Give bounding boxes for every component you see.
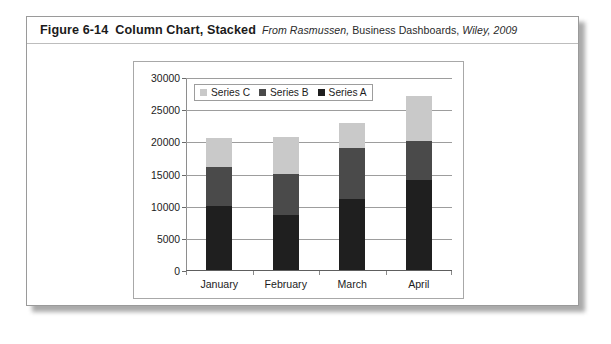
- bar-stack[interactable]: [406, 96, 432, 270]
- y-axis-tick-mark: [182, 78, 186, 79]
- y-axis-tick-mark: [182, 142, 186, 143]
- figure-source: From Rasmussen, Business Dashboards, Wil…: [262, 25, 517, 36]
- figure-caption: Figure 6-14 Column Chart, Stacked From R…: [27, 24, 517, 37]
- figure-title: Column Chart, Stacked: [115, 24, 256, 37]
- bar-segment-series-b[interactable]: [339, 148, 365, 199]
- x-axis-tick-mark: [451, 271, 452, 275]
- x-axis-tick-label: March: [338, 278, 367, 290]
- x-axis-tick-label: April: [408, 278, 429, 290]
- bar-segment-series-c[interactable]: [206, 138, 232, 168]
- legend-item[interactable]: Series A: [318, 87, 367, 98]
- x-axis-tick-label: January: [200, 278, 238, 290]
- figure-caption-bar: Figure 6-14 Column Chart, Stacked From R…: [27, 17, 578, 44]
- figure-source-book: Business Dashboards,: [352, 24, 459, 36]
- legend-swatch-icon: [318, 89, 325, 96]
- legend-swatch-icon: [200, 89, 207, 96]
- chart-plot-area: 050001000015000200002500030000JanuaryFeb…: [186, 78, 452, 271]
- bar-segment-series-b[interactable]: [206, 167, 232, 206]
- x-axis-tick-mark: [253, 271, 254, 275]
- y-axis-tick-label: 30000: [151, 73, 180, 84]
- y-axis-tick-label: 10000: [151, 201, 180, 212]
- bar-segment-series-a[interactable]: [339, 199, 365, 270]
- x-axis-tick-mark: [386, 271, 387, 275]
- legend-label: Series B: [270, 87, 309, 98]
- y-axis-tick-label: 20000: [151, 137, 180, 148]
- figure-source-author: From Rasmussen,: [262, 24, 349, 36]
- x-axis-tick-label: February: [265, 278, 307, 290]
- y-axis-tick-label: 25000: [151, 105, 180, 116]
- chart-legend: Series CSeries BSeries A: [194, 84, 373, 101]
- bar-segment-series-b[interactable]: [273, 174, 299, 215]
- page-root: Figure 6-14 Column Chart, Stacked From R…: [0, 0, 611, 344]
- figure-source-publisher: Wiley, 2009: [462, 24, 517, 36]
- legend-label: Series C: [211, 87, 250, 98]
- x-axis-tick-mark: [319, 271, 320, 275]
- legend-swatch-icon: [259, 89, 266, 96]
- y-axis-tick-label: 15000: [151, 169, 180, 180]
- y-axis-tick-mark: [182, 110, 186, 111]
- legend-item[interactable]: Series C: [200, 87, 250, 98]
- figure-number: Figure 6-14: [40, 24, 108, 37]
- chart-panel: 050001000015000200002500030000JanuaryFeb…: [133, 61, 464, 299]
- y-axis-tick-mark: [182, 175, 186, 176]
- chart-plot-wrap: 050001000015000200002500030000JanuaryFeb…: [134, 62, 463, 298]
- bar-stack[interactable]: [206, 137, 232, 270]
- bar-segment-series-a[interactable]: [406, 180, 432, 270]
- bar-segment-series-b[interactable]: [406, 141, 432, 180]
- x-axis-tick-mark: [186, 271, 187, 275]
- bar-segment-series-a[interactable]: [273, 215, 299, 270]
- y-axis-tick-label: 0: [174, 266, 180, 277]
- legend-label: Series A: [329, 87, 367, 98]
- gridline: [186, 78, 452, 79]
- figure-card: Figure 6-14 Column Chart, Stacked From R…: [26, 16, 579, 306]
- bar-segment-series-c[interactable]: [273, 137, 299, 173]
- y-axis-tick-mark: [182, 207, 186, 208]
- bar-segment-series-c[interactable]: [406, 96, 432, 140]
- y-axis-tick-mark: [182, 239, 186, 240]
- y-axis-tick-label: 5000: [157, 233, 180, 244]
- bar-segment-series-a[interactable]: [206, 206, 232, 270]
- bar-stack[interactable]: [273, 137, 299, 270]
- legend-item[interactable]: Series B: [259, 87, 309, 98]
- bar-stack[interactable]: [339, 123, 365, 270]
- bar-segment-series-c[interactable]: [339, 123, 365, 148]
